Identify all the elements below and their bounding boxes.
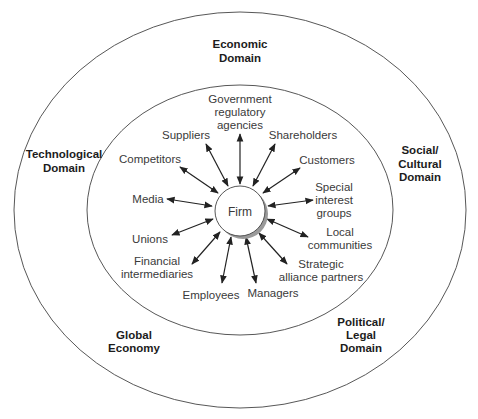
arrow-strategic-alliance	[259, 233, 287, 264]
arrow-media	[167, 199, 212, 206]
svg-text:Domain: Domain	[43, 162, 85, 174]
stakeholder-special-interest: Special interest groups	[315, 181, 354, 219]
domain-technological: Technological Domain	[26, 148, 102, 174]
svg-text:communities: communities	[308, 239, 373, 251]
svg-text:interest: interest	[315, 194, 354, 206]
firm-label: Firm	[228, 205, 252, 219]
arrow-customers	[263, 168, 300, 193]
domain-political-legal: Political/ Legal Domain	[337, 316, 385, 354]
arrow-special-interest	[268, 200, 313, 206]
stakeholder-shareholders: Shareholders	[269, 129, 338, 141]
stakeholder-government: Government regulatory agencies	[208, 93, 272, 131]
svg-text:Technological: Technological	[26, 148, 102, 160]
stakeholder-local-communities: Local communities	[308, 226, 373, 251]
svg-text:Domain: Domain	[399, 171, 441, 183]
stakeholder-financial: Financial intermediaries	[121, 255, 193, 280]
stakeholder-strategic-alliance: Strategic alliance partners	[279, 258, 364, 283]
stakeholder-managers: Managers	[247, 287, 298, 299]
stakeholder-suppliers: Suppliers	[162, 129, 210, 141]
arrow-managers	[246, 237, 256, 283]
domain-economic: Economic Domain	[213, 38, 269, 64]
stakeholder-competitors: Competitors	[119, 153, 181, 165]
svg-text:Strategic: Strategic	[298, 258, 344, 270]
arrow-local-communities	[267, 219, 308, 237]
svg-text:Economy: Economy	[108, 342, 160, 354]
svg-text:Special: Special	[315, 181, 353, 193]
svg-text:Government: Government	[208, 93, 272, 105]
svg-text:agencies: agencies	[217, 119, 263, 131]
arrow-unions	[172, 219, 213, 235]
arrow-financial	[192, 232, 220, 264]
svg-text:Cultural: Cultural	[398, 158, 441, 170]
arrow-employees	[222, 237, 231, 283]
arrow-suppliers	[206, 144, 228, 186]
svg-text:regulatory: regulatory	[214, 106, 265, 118]
stakeholder-media: Media	[132, 193, 164, 205]
stakeholder-customers: Customers	[299, 154, 355, 166]
svg-text:Domain: Domain	[219, 52, 261, 64]
arrow-shareholders	[253, 144, 275, 186]
arrow-competitors	[180, 167, 218, 193]
svg-text:Domain: Domain	[340, 342, 382, 354]
svg-text:Global: Global	[116, 329, 152, 341]
svg-text:Financial: Financial	[134, 255, 180, 267]
svg-text:alliance partners: alliance partners	[279, 271, 364, 283]
svg-text:Political/: Political/	[337, 316, 385, 328]
svg-text:Local: Local	[326, 226, 354, 238]
domain-social-cultural: Social/ Cultural Domain	[398, 144, 441, 183]
svg-text:groups: groups	[316, 207, 351, 219]
domain-global-economy: Global Economy	[108, 329, 160, 354]
stakeholder-unions: Unions	[132, 233, 168, 245]
svg-text:Social/: Social/	[401, 144, 439, 156]
svg-text:Legal: Legal	[346, 329, 376, 341]
svg-text:intermediaries: intermediaries	[121, 268, 193, 280]
stakeholder-employees: Employees	[183, 289, 240, 301]
stakeholder-environment-diagram: Firm Economic Domain Technological Domai…	[0, 0, 478, 419]
svg-text:Economic: Economic	[213, 38, 269, 50]
